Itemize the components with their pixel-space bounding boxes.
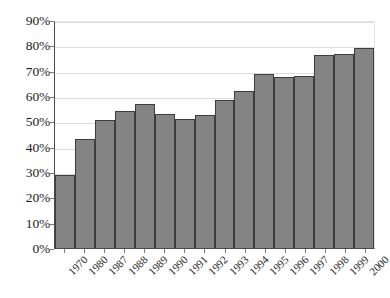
bar-series [55, 22, 374, 248]
y-axis-tick-label: 30% [4, 166, 50, 180]
x-axis-tick-mark [184, 249, 185, 253]
y-axis-tick-label: 80% [4, 39, 50, 53]
bar [215, 100, 235, 248]
y-axis-tick-label: 70% [4, 65, 50, 79]
x-axis-tick-mark [204, 249, 205, 253]
bar [115, 111, 135, 248]
bar [135, 104, 155, 248]
bar [155, 114, 175, 248]
bar [294, 76, 314, 248]
plot-area [54, 21, 375, 249]
x-axis-tick: 1989 [134, 249, 154, 298]
x-axis-tick-mark [325, 249, 326, 253]
y-axis-tick-label: 10% [4, 217, 50, 231]
x-axis-tick-mark [164, 249, 165, 253]
bar [274, 77, 294, 248]
x-axis-tick-label: 2000 [367, 254, 390, 277]
bar [354, 48, 374, 248]
bar [175, 119, 195, 248]
bar [95, 120, 115, 248]
y-axis-tick-label: 0% [4, 242, 50, 256]
x-axis-tick-mark [144, 249, 145, 253]
x-axis-tick: 1998 [315, 249, 335, 298]
y-axis: 0%10%20%30%40%50%60%70%80%90% [0, 0, 50, 298]
x-axis-tick-mark [225, 249, 226, 253]
x-axis-tick: 2000 [355, 249, 375, 298]
x-axis-tick-mark [365, 249, 366, 253]
x-axis-tick: 1999 [335, 249, 355, 298]
x-axis-tick-mark [265, 249, 266, 253]
x-axis-tick: 1995 [255, 249, 275, 298]
x-axis-tick: 1987 [94, 249, 114, 298]
y-axis-tick-label: 90% [4, 14, 50, 28]
bar-chart: 0%10%20%30%40%50%60%70%80%90% 1970198019… [0, 0, 390, 298]
bar [334, 54, 354, 248]
x-axis-tick: 1992 [194, 249, 214, 298]
x-axis-tick: 1996 [275, 249, 295, 298]
x-axis-tick: 1993 [215, 249, 235, 298]
x-axis: 1970198019871988198919901991199219931994… [54, 249, 375, 298]
bar [254, 74, 274, 248]
x-axis-tick-mark [84, 249, 85, 253]
x-axis-tick: 1990 [154, 249, 174, 298]
x-axis-tick-mark [124, 249, 125, 253]
x-axis-tick: 1994 [235, 249, 255, 298]
y-axis-tick-label: 40% [4, 141, 50, 155]
y-axis-tick-label: 50% [4, 115, 50, 129]
y-axis-tick-label: 60% [4, 90, 50, 104]
bar [234, 91, 254, 248]
y-axis-tick-label: 20% [4, 191, 50, 205]
x-axis-tick-mark [345, 249, 346, 253]
bar [195, 115, 215, 248]
x-axis-tick: 1980 [74, 249, 94, 298]
x-axis-tick-mark [305, 249, 306, 253]
bar [314, 55, 334, 248]
bar [75, 139, 95, 248]
x-axis-tick-mark [104, 249, 105, 253]
x-axis-tick: 1970 [54, 249, 74, 298]
x-axis-tick-mark [64, 249, 65, 253]
bar [55, 175, 75, 248]
x-axis-tick: 1997 [295, 249, 315, 298]
x-axis-tick: 1988 [114, 249, 134, 298]
x-axis-tick: 1991 [174, 249, 194, 298]
x-axis-tick-mark [285, 249, 286, 253]
x-axis-tick-mark [245, 249, 246, 253]
